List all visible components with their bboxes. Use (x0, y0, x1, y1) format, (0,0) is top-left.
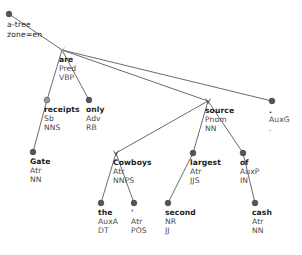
node-form: second (165, 208, 196, 217)
tree-node-label[interactable]: .AuxG. (269, 106, 290, 134)
node-form: only (86, 105, 105, 114)
node-afun: AuxP (240, 167, 259, 176)
node-form: Cowboys (113, 158, 152, 167)
tree-node-marker[interactable] (165, 200, 171, 206)
node-form: Gate (30, 157, 51, 166)
node-afun: NR (165, 217, 196, 226)
node-pos: VBP (59, 73, 76, 82)
node-form: of (240, 158, 259, 167)
tree-node-label[interactable]: largestAtrJJS (190, 158, 221, 186)
node-pos: NNPS (113, 176, 152, 185)
tree-node-marker[interactable] (86, 97, 92, 103)
tree-edge (62, 50, 208, 101)
node-afun: Atr (131, 217, 147, 226)
node-afun: Adv (86, 114, 105, 123)
tree-node-marker[interactable] (98, 200, 104, 206)
node-form: receipts (44, 105, 80, 114)
tree-node-label[interactable]: ofAuxPIN (240, 158, 259, 186)
node-form: ' (131, 208, 147, 217)
node-form: are (59, 55, 76, 64)
node-afun: Pred (59, 64, 76, 73)
tree-node-marker[interactable] (269, 98, 275, 104)
root-zone: zone=en (7, 30, 42, 40)
tree-node-label[interactable]: secondNRJJ (165, 208, 196, 236)
node-form: source (205, 106, 234, 115)
tree-node-marker[interactable] (44, 97, 50, 103)
tree-node-label[interactable]: theAuxADT (98, 208, 118, 236)
node-form: the (98, 208, 118, 217)
node-afun: Sb (44, 114, 80, 123)
node-pos: IN (240, 176, 259, 185)
tree-node-marker[interactable] (131, 200, 137, 206)
node-pos: NNS (44, 123, 80, 132)
tree-edge (116, 101, 208, 153)
tree-node-label[interactable]: cashAtrNN (252, 208, 272, 236)
tree-node-label[interactable]: CowboysAtrNNPS (113, 158, 152, 186)
node-pos: JJ (165, 226, 196, 235)
node-afun: Atr (113, 167, 152, 176)
tree-node-marker[interactable] (30, 149, 36, 155)
root-node-label: a-tree zone=en (7, 20, 42, 39)
node-afun: Pnom (205, 115, 234, 124)
node-pos: NN (205, 124, 234, 133)
tree-node-label[interactable]: onlyAdvRB (86, 105, 105, 133)
node-pos: POS (131, 226, 147, 235)
node-pos: RB (86, 123, 105, 132)
node-pos: NN (30, 175, 51, 184)
node-pos: NN (252, 226, 272, 235)
tree-node-marker[interactable] (6, 11, 12, 17)
node-afun: Atr (252, 217, 272, 226)
tree-node-marker[interactable] (252, 200, 258, 206)
node-form: largest (190, 158, 221, 167)
tree-node-marker[interactable] (190, 150, 196, 156)
tree-node-label[interactable]: arePredVBP (59, 55, 76, 83)
node-pos: . (269, 124, 290, 133)
node-pos: JJS (190, 176, 221, 185)
node-afun: Atr (30, 166, 51, 175)
node-form: cash (252, 208, 272, 217)
node-pos: DT (98, 226, 118, 235)
root-name: a-tree (7, 20, 42, 30)
node-afun: AuxA (98, 217, 118, 226)
node-afun: AuxG (269, 115, 290, 124)
tree-node-label[interactable]: receiptsSbNNS (44, 105, 80, 133)
tree-node-label[interactable]: GateAtrNN (30, 157, 51, 185)
node-form: . (269, 106, 290, 115)
tree-edge (62, 50, 272, 101)
tree-node-label[interactable]: sourcePnomNN (205, 106, 234, 134)
tree-node-label[interactable]: 'AtrPOS (131, 208, 147, 236)
tree-node-marker[interactable] (240, 150, 246, 156)
node-afun: Atr (190, 167, 221, 176)
